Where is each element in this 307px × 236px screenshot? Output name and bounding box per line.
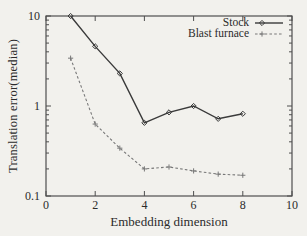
y-tick-label: 0.1 (0, 189, 40, 203)
legend-line-sample (254, 29, 284, 39)
x-tick-label: 6 (182, 198, 206, 212)
legend-line-sample (254, 18, 284, 28)
x-tick-label: 8 (231, 198, 255, 212)
y-tick-label: 1 (0, 99, 40, 113)
x-axis-title: Embedding dimension (110, 214, 227, 230)
y-tick-label: 10 (0, 9, 40, 23)
line-chart-figure: Translation error(median) Embedding dime… (0, 0, 307, 236)
legend: StockBlast furnace (188, 17, 284, 39)
x-tick-label: 2 (83, 198, 107, 212)
x-tick-label: 4 (132, 198, 156, 212)
legend-entry: Blast furnace (188, 28, 284, 39)
x-tick-label: 10 (280, 198, 304, 212)
legend-label: Blast furnace (188, 28, 249, 39)
